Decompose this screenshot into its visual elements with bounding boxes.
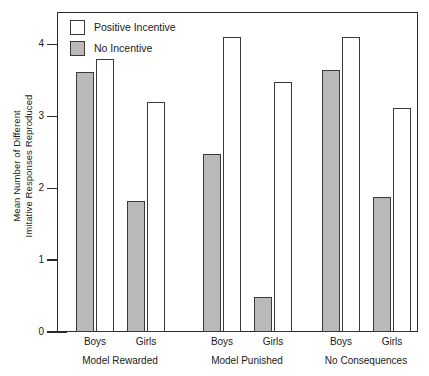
y-axis-tick-label-0: 0 [26, 327, 44, 337]
y-axis-label: Mean Number of Different Imitative Respo… [0, 0, 46, 332]
bar-chart-figure: Mean Number of Different Imitative Respo… [0, 0, 429, 376]
legend-swatch-icon-no-incentive [70, 41, 85, 56]
legend-item-positive-incentive: Positive Incentive [70, 18, 220, 37]
x-axis-group-label-model-rewarded: Model Rewarded [60, 355, 180, 366]
y-axis-label-line-1: Mean Number of Different [11, 95, 23, 238]
x-axis-group-label-no-consequences: No Consequences [306, 355, 426, 366]
x-axis-sublabel-1: Girls [116, 336, 176, 347]
bar-no-consequences-girls-positive-incentive [393, 108, 411, 332]
bar-no-consequences-boys-no-incentive [322, 70, 340, 332]
legend-swatch-icon-positive-incentive [70, 20, 85, 35]
bar-model-punished-boys-positive-incentive [223, 37, 241, 332]
bar-model-punished-girls-positive-incentive [274, 82, 292, 332]
bar-no-consequences-boys-positive-incentive [342, 37, 360, 332]
bar-model-rewarded-boys-no-incentive [76, 72, 94, 332]
bar-model-punished-boys-no-incentive [203, 154, 221, 332]
y-axis-tick-label-2: 2 [26, 183, 44, 193]
bars-layer [57, 12, 418, 332]
bar-model-rewarded-girls-positive-incentive [147, 102, 165, 332]
bar-no-consequences-girls-no-incentive [373, 197, 391, 332]
y-axis-tick-label-4: 4 [26, 39, 44, 49]
y-axis-tick-label-1: 1 [26, 255, 44, 265]
bar-model-rewarded-boys-positive-incentive [96, 59, 114, 332]
legend: Positive Incentive No Incentive [70, 18, 220, 60]
legend-label-positive-incentive: Positive Incentive [94, 22, 176, 33]
x-axis-group-label-model-punished: Model Punished [187, 355, 307, 366]
y-axis-tick-label-3: 3 [26, 111, 44, 121]
x-axis-sublabel-3: Girls [243, 336, 303, 347]
legend-label-no-incentive: No Incentive [94, 43, 152, 54]
bar-model-punished-girls-no-incentive [254, 297, 272, 332]
legend-item-no-incentive: No Incentive [70, 39, 220, 58]
x-axis-sublabel-5: Girls [362, 336, 422, 347]
bar-model-rewarded-girls-no-incentive [127, 201, 145, 332]
